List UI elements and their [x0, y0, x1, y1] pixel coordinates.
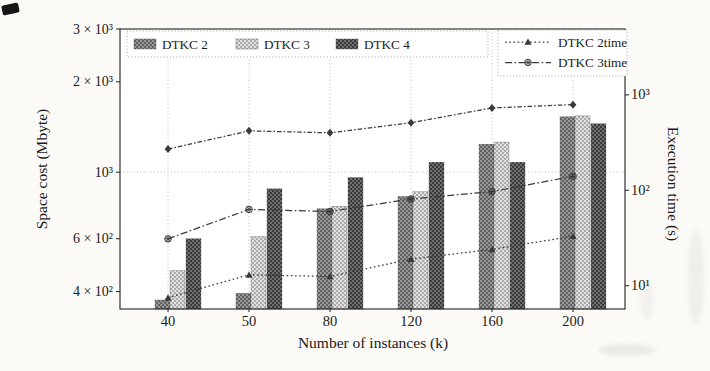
line-dtkc-3time-marker-200 [570, 173, 577, 180]
left-tick-label: 3 × 10³ [73, 22, 113, 37]
legend-bar-label: DTKC 3 [264, 37, 310, 52]
bar-dtkc-3-40 [170, 271, 185, 309]
right-tick-label: 10³ [631, 86, 651, 102]
scan-smudge [640, 280, 654, 320]
left-axis-title: Space cost (Mbyte) [33, 109, 51, 230]
left-tick-label: 2 × 10³ [73, 74, 113, 89]
line-dtkc-3time-marker-40 [165, 236, 172, 243]
x-tick-label: 40 [161, 313, 176, 329]
legend-bar-label: DTKC 4 [364, 37, 410, 52]
x-axis-title: Number of instances (k) [298, 334, 448, 352]
bar-dtkc-2-40 [155, 300, 170, 309]
legend-marker-icon [525, 59, 532, 66]
bar-dtkc-4-200 [591, 124, 606, 309]
chart-canvas: 3 × 10³2 × 10³10³6 × 10²4 × 10²10³10²10¹… [0, 0, 710, 371]
bar-dtkc-2-200 [560, 117, 575, 309]
line-dtkc-3time-marker-50 [246, 206, 253, 213]
bar-dtkc-2-80 [317, 209, 332, 309]
legend-swatch-icon [134, 39, 156, 49]
bar-dtkc-4-160 [510, 162, 525, 309]
legend-line-label: DTKC 3time [558, 55, 627, 70]
figure: 3 × 10³2 × 10³10³6 × 10²4 × 10²10³10²10¹… [0, 0, 710, 371]
x-tick-label: 120 [400, 313, 422, 329]
line-dtkc-3time-marker-160 [489, 188, 496, 195]
left-tick-label: 4 × 10² [73, 284, 113, 299]
legend-bar-label: DTKC 2 [162, 37, 208, 52]
bar-dtkc-4-80 [348, 177, 363, 309]
bar-dtkc-3-80 [332, 206, 347, 309]
legend-line-label: DTKC 2time [558, 35, 627, 50]
legend-swatch-icon [236, 39, 258, 49]
line-dtkc-3time-marker-80 [327, 208, 334, 215]
line-dtkc-3time-marker-120 [408, 196, 415, 203]
right-tick-label: 10² [631, 182, 651, 198]
bar-dtkc-2-120 [398, 196, 413, 309]
left-tick-label: 6 × 10² [73, 231, 113, 246]
x-tick-label: 160 [481, 313, 503, 329]
scan-smudge [598, 344, 656, 356]
bar-dtkc-3-120 [413, 192, 428, 309]
bar-dtkc-4-50 [267, 189, 282, 309]
bar-dtkc-2-160 [479, 144, 494, 309]
x-tick-label: 80 [323, 313, 338, 329]
x-tick-label: 50 [242, 313, 257, 329]
scan-smudge [688, 230, 704, 325]
bar-dtkc-3-50 [251, 237, 266, 309]
bar-dtkc-3-200 [575, 116, 590, 309]
legend-swatch-icon [336, 39, 358, 49]
x-tick-label: 200 [562, 313, 584, 329]
bar-dtkc-3-160 [494, 142, 509, 309]
bar-dtkc-2-50 [236, 293, 251, 309]
right-axis-title: Execution time (s) [664, 127, 682, 242]
bar-dtkc-4-40 [186, 239, 201, 309]
bar-dtkc-4-120 [429, 162, 444, 309]
left-tick-label: 10³ [95, 165, 113, 180]
